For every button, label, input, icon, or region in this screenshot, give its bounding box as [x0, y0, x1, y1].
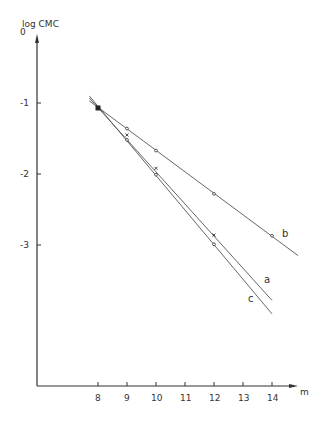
series-line-b: [89, 101, 298, 256]
y-axis-arrow-icon: [35, 34, 39, 43]
data-point-b: [213, 192, 216, 195]
curve-label-c: c: [248, 293, 254, 304]
data-point-a: [126, 133, 129, 136]
series-line-c: [89, 96, 272, 314]
x-tick-label: 11: [180, 393, 191, 403]
curve-label-b: b: [282, 228, 288, 239]
x-tick-label: 14: [267, 393, 279, 403]
x-ticks: 891011121314: [95, 382, 279, 403]
data-point-b: [155, 149, 158, 152]
data-point-c: [213, 243, 216, 246]
x-tick-label: 10: [151, 393, 163, 403]
y-tick-label: 0: [20, 27, 26, 37]
data-point-b: [126, 127, 129, 130]
x-tick-label: 8: [95, 393, 101, 403]
chart: log CMC m 0-1-2-3 891011121314 b a c: [0, 0, 314, 428]
x-tick-label: 12: [209, 393, 220, 403]
x-tick-label: 13: [238, 393, 249, 403]
y-tick-label: -2: [20, 169, 29, 179]
convergence-marker: [96, 105, 101, 110]
y-tick-label: -1: [20, 98, 29, 108]
y-axis-title: log CMC: [22, 19, 59, 29]
data-point-c: [155, 173, 158, 176]
x-tick-label: 9: [124, 393, 130, 403]
data-point-b: [271, 234, 274, 237]
data-point-c: [126, 139, 129, 142]
data-point-a: [155, 167, 158, 170]
y-ticks: 0-1-2-3: [20, 27, 41, 250]
y-tick-label: -3: [20, 240, 29, 250]
x-axis-title: m: [300, 387, 309, 397]
curve-label-a: a: [264, 274, 270, 285]
x-axis-arrow-icon: [289, 384, 298, 388]
